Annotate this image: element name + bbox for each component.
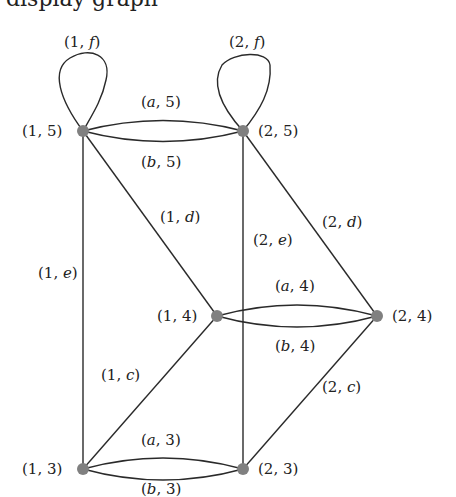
edge-label-2f: (2, f) [229,33,265,51]
edge-a4 [217,305,377,316]
node-1-5 [77,125,89,137]
node-label-1-4: (1, 4) [157,307,197,325]
edge-label-1f: (1, f) [64,33,100,51]
node-label-2-4: (2, 4) [392,307,432,325]
edge-label-b3: (b, 3) [141,480,181,497]
edge-label-a4: (a, 4) [275,277,315,295]
graph-diagram: (1, 5) (2, 5) (1, 4) (2, 4) (1, 3) (2, 3… [0,0,456,497]
edge-label-2d: (2, d) [322,213,362,231]
edge-label-1e: (1, e) [38,264,78,282]
node-label-1-3: (1, 3) [22,460,62,478]
edge-label-a5: (a, 5) [141,93,181,111]
edge-label-1c: (1, c) [101,366,140,384]
edge-label-2e: (2, e) [253,231,293,249]
edge-label-1d: (1, d) [160,208,200,226]
node-label-2-5: (2, 5) [258,122,298,140]
edge-b4 [217,316,377,327]
edge-a5 [83,121,243,132]
edge-label-2c: (2, c) [322,378,361,396]
node-2-5 [237,125,249,137]
edge-label-b4: (b, 4) [275,337,315,355]
edge-b5 [83,131,243,142]
node-2-4 [371,310,383,322]
node-label-2-3: (2, 3) [258,460,298,478]
edge-label-b5: (b, 5) [141,153,181,171]
node-label-1-5: (1, 5) [22,122,62,140]
edge-a3 [83,458,243,469]
node-2-3 [237,463,249,475]
edge-loop-2f [218,54,271,131]
node-1-3 [77,463,89,475]
node-1-4 [211,310,223,322]
edge-b3 [83,469,243,480]
edge-label-a3: (a, 3) [141,431,181,449]
edge-loop-1f [59,53,107,131]
